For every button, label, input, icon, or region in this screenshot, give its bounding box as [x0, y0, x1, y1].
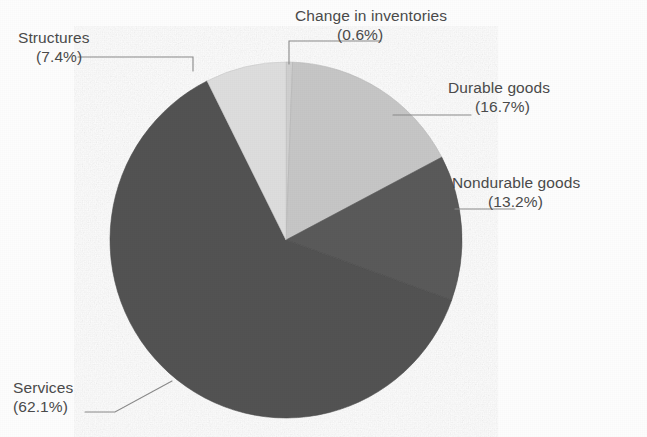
pie-label-nondurable-goods: Nondurable goods (13.2%)	[452, 173, 580, 211]
pie-label-structures-name: Structures	[18, 28, 90, 47]
pie-label-services-name: Services	[13, 378, 73, 397]
pie-label-structures: Structures (7.4%)	[18, 28, 90, 66]
pie-label-services-percent: (62.1%)	[13, 397, 73, 416]
pie-label-durable-goods-name: Durable goods	[448, 78, 550, 97]
pie-chart-figure: Change in inventories (0.6%) Structures …	[0, 0, 647, 437]
pie-label-change-in-inventories-percent: (0.6%)	[295, 25, 447, 44]
pie-label-nondurable-goods-percent: (13.2%)	[452, 192, 580, 211]
pie-label-durable-goods-percent: (16.7%)	[448, 97, 550, 116]
pie-label-nondurable-goods-name: Nondurable goods	[452, 173, 580, 192]
pie-chart-canvas	[0, 0, 647, 437]
pie-label-change-in-inventories: Change in inventories (0.6%)	[295, 6, 447, 44]
pie-label-durable-goods: Durable goods (16.7%)	[448, 78, 550, 116]
pie-label-structures-percent: (7.4%)	[18, 47, 90, 66]
pie-label-change-in-inventories-name: Change in inventories	[295, 6, 447, 25]
pie-label-services: Services (62.1%)	[13, 378, 73, 416]
